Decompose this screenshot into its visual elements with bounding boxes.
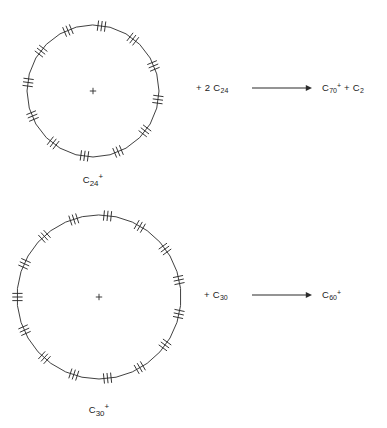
triple-bond-tick [107,373,108,383]
structure-group-c24 [23,21,164,162]
triple-bond-tick [101,21,102,31]
structure-caption-c30: C30+ [59,402,139,418]
structure-caption-c24: C24+ [53,172,133,188]
triple-bond-tick [84,151,85,161]
product-label-reaction-1: C70+ + C2 [322,82,364,94]
triple-bond-tick [104,21,105,31]
triple-bond-tick [23,78,33,79]
triple-bond-tick [140,224,145,233]
triple-bond-tick [29,117,39,121]
triple-bond-tick [134,220,139,229]
triple-bond-tick [23,85,33,86]
product-label-reaction-2: C60+ [322,289,341,301]
triple-bond-tick [103,373,104,383]
triple-bond-tick [21,258,30,262]
triple-bond-tick [116,147,120,157]
triple-bond-tick [63,27,67,37]
triple-bond-tick [119,145,123,155]
triple-bond-tick [80,150,81,160]
triple-bond-tick [153,95,163,96]
reaction-arrow-head [306,85,312,91]
triple-bond-tick [111,211,112,221]
reactant-label-reaction-1: + 2 C24 [196,82,228,94]
triple-bond-tick [103,210,104,220]
triple-bond-tick [28,114,38,118]
triple-bond-tick [20,328,29,332]
triple-bond-tick [111,373,112,383]
triple-bond-tick [18,265,27,269]
reaction-scheme-canvas [0,0,387,428]
triple-bond-tick [66,26,70,36]
triple-bond-tick [97,21,98,31]
triple-bond-tick [107,211,108,221]
triple-bond-tick [113,148,117,158]
triple-bond-tick [23,82,33,83]
triple-bond-tick [153,99,163,100]
structure-group-c30 [12,210,184,383]
reaction-arrow-head [306,292,312,298]
triple-bond-tick [149,64,159,68]
triple-bond-tick [69,24,73,34]
triple-bond-tick [150,67,160,71]
triple-bond-tick [137,363,142,372]
triple-bond-tick [87,151,88,161]
triple-bond-tick [152,102,162,103]
arrow-group [252,85,312,298]
triple-bond-tick [18,325,27,329]
triple-bond-tick [147,61,157,65]
reactant-label-reaction-2: + C30 [204,289,228,301]
triple-bond-tick [140,361,145,370]
triple-bond-tick [20,262,29,266]
triple-bond-tick [134,365,139,374]
triple-bond-tick [21,331,30,335]
triple-bond-tick [26,111,36,115]
triple-bond-tick [137,222,142,231]
